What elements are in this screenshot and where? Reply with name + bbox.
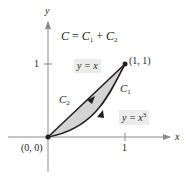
- equation-label: C = C1 + C2: [61, 30, 118, 44]
- equation-c1: C: [82, 29, 90, 43]
- equation-eq: =: [69, 29, 82, 43]
- c1-label: C1: [120, 83, 131, 96]
- diagram-canvas: [0, 0, 186, 181]
- y-tick-label: 1: [34, 59, 39, 69]
- equation-plus: +: [93, 29, 106, 43]
- cubic-label-base: y = x: [122, 112, 143, 123]
- x-axis-label: x: [175, 132, 179, 142]
- c2-label: C2: [59, 94, 70, 107]
- origin-point: [46, 135, 51, 140]
- origin-point-label: (0, 0): [21, 143, 43, 153]
- c2-label-sub: 2: [66, 99, 70, 107]
- line-integral-diagram: y x 1 1 C = C1 + C2 (1, 1) (0, 0) y = x …: [0, 0, 186, 181]
- equation-c2: C: [106, 29, 114, 43]
- c1-direction-arrow-icon: [97, 110, 104, 118]
- equation-lhs: C: [61, 29, 69, 43]
- end-point-label: (1, 1): [129, 56, 151, 66]
- c1-label-sub: 1: [127, 88, 131, 96]
- equation-c2-sub: 2: [114, 36, 118, 44]
- line-equation-label: y = x: [74, 59, 101, 73]
- cubic-equation-label: y = x3: [119, 110, 149, 125]
- cubic-label-exp: 3: [143, 111, 147, 119]
- x-tick-label: 1: [122, 143, 127, 153]
- y-axis-label: y: [45, 6, 49, 16]
- end-point: [123, 62, 128, 67]
